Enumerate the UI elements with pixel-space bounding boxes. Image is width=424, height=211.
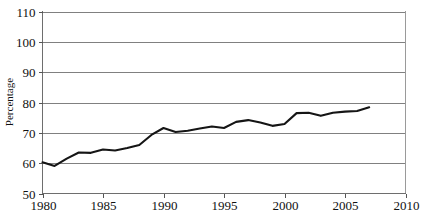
y-tick-label-100: 100 [16,35,36,50]
x-tick-label-1985: 1985 [91,198,117,211]
line-chart: 5060708090100110 19801985199019952000200… [0,0,424,210]
x-tick-label-1990: 1990 [152,198,178,211]
y-tick-label-80: 80 [23,96,36,111]
x-tick-label-2005: 2005 [333,198,359,211]
y-tick-label-110: 110 [16,5,35,20]
y-tick-label-60: 60 [23,156,36,171]
y-tick-label-70: 70 [23,126,36,141]
y-axis-title: Percentage [3,78,15,126]
y-tick-label-90: 90 [23,65,36,80]
x-tick-label-1995: 1995 [212,198,238,211]
chart-canvas: 5060708090100110 19801985199019952000200… [0,0,424,210]
x-tick-label-2000: 2000 [273,198,299,211]
y-axis-ticks: 5060708090100110 [16,5,43,202]
x-tick-label-1980: 1980 [31,198,57,211]
x-axis-ticks: 1980198519901995200020052010 [31,194,420,211]
plot-background [42,11,406,193]
x-tick-label-2010: 2010 [394,198,420,211]
